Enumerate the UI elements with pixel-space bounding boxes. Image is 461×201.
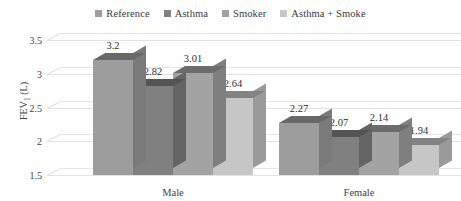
x-axis-label-male: Male [162,187,184,198]
bar-value-label: 3.01 [184,53,202,64]
legend-label: Asthma [175,8,208,19]
bar-group-container: 3.22.823.012.642.272.072.141.94 [47,34,461,184]
bar-side-face [173,71,186,168]
legend-item-smoker[interactable]: Smoker [222,8,266,19]
legend-swatch-icon [95,10,102,17]
bar-side-face [213,59,226,168]
bar-male-reference[interactable]: 3.2 [93,60,133,175]
y-axis-title: FEV1 (L) [18,82,32,120]
chart-legend: ReferenceAsthmaSmokerAsthma + Smoke [0,8,461,19]
bar-value-label: 2.64 [224,78,242,89]
plot-area: 3.532.521.5 3.22.823.012.642.272.072.141… [47,34,461,184]
legend-label: Asthma + Smoke [291,8,365,19]
y-axis-tick-label: 3.5 [30,35,43,46]
legend-swatch-icon [222,10,229,17]
y-axis-title-subscript: 1 [23,97,32,101]
y-axis-tick-label: 3 [37,68,42,79]
bar-side-face [439,131,452,168]
bar-side-face [359,122,372,168]
legend-swatch-icon [164,10,171,17]
y-axis-title-unit: (L) [18,82,29,97]
legend-item-asthma[interactable]: Asthma [164,8,208,19]
chart-container: ReferenceAsthmaSmokerAsthma + Smoke FEV1… [0,0,461,201]
bar-female-reference[interactable]: 2.27 [279,123,319,175]
legend-item-asthma-smoke[interactable]: Asthma + Smoke [280,8,365,19]
bar-front-face [93,60,133,175]
y-axis-tick-label: 2.5 [30,102,43,113]
bar-front-face [279,123,319,175]
y-axis-tick-label: 1.5 [30,170,43,181]
legend-label: Smoker [233,8,266,19]
legend-swatch-icon [280,10,287,17]
bar-value-label: 2.14 [370,112,388,123]
x-axis-label-female: Female [344,187,375,198]
legend-item-reference[interactable]: Reference [95,8,149,19]
bar-value-label: 3.2 [106,40,119,51]
bar-value-label: 2.82 [144,66,162,77]
bar-value-label: 2.07 [330,117,348,128]
legend-label: Reference [106,8,149,19]
bar-side-face [133,46,146,168]
bar-value-label: 2.27 [290,103,308,114]
bar-value-label: 1.94 [410,125,428,136]
y-axis-title-base: FEV [18,101,29,120]
y-axis-tick-label: 2 [37,136,42,147]
